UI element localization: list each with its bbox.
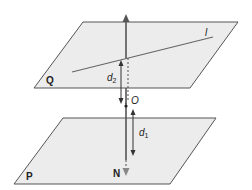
d1-arrow-up-icon <box>131 109 136 115</box>
point-o <box>124 104 127 107</box>
d2-arrow-down-icon <box>119 98 124 104</box>
plane-q-label: Q <box>46 75 54 86</box>
normal-n-label: N <box>113 168 120 179</box>
point-o-label: O <box>131 95 139 106</box>
planes-diagram: Q P l O N d2 d1 <box>0 0 252 190</box>
axis-up-arrowhead-icon <box>123 14 130 22</box>
plane-q <box>34 22 238 88</box>
plane-p-label: P <box>26 171 33 182</box>
